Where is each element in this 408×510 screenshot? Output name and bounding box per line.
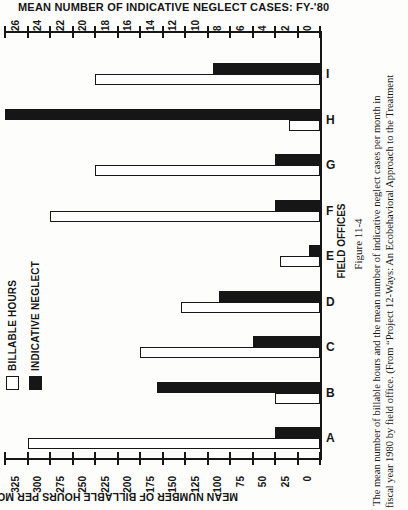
neglect-axis-tick [27,26,29,38]
caption-line-1: The mean number of billable hours and th… [370,4,383,506]
neglect-axis-tick [49,26,51,38]
billable-axis-tick [27,452,29,465]
neglect-axis-tick-label: 14 [145,11,157,31]
zero-baseline [320,31,322,460]
neglect-axis-tick-label: 22 [55,11,67,31]
neglect-axis-tick [139,26,141,38]
billable-axis-tick-label: 25 [280,476,292,497]
billable-axis-tick [252,452,254,465]
bar-billable-hours-G [95,165,320,176]
neglect-axis-tick-label: 6 [235,11,247,31]
billable-axis-tick [72,452,74,465]
bar-billable-hours-I [95,74,320,85]
bar-indicative-neglect-B [157,382,320,393]
bar-indicative-neglect-D [219,291,320,302]
neglect-axis-tick [319,26,321,38]
bar-billable-hours-E [280,256,321,267]
bar-indicative-neglect-I [213,63,320,74]
billable-axis-tick [139,452,141,465]
neglect-axis-tick [94,26,96,38]
billable-axis-tick [207,452,209,465]
neglect-axis-tick [274,26,276,38]
caption-line-2: fiscal year 1980 by field office. (From … [383,2,396,508]
field-office-letter-I: I [326,68,340,80]
neglect-axis-tick-label: 16 [122,11,134,31]
legend-label: BILLABLE HOURS [7,280,18,371]
neglect-axis-tick-label: 24 [32,11,44,31]
bar-indicative-neglect-C [253,336,321,347]
neglect-axis-tick-label: 10 [190,11,202,31]
billable-axis-tick-label: 0 [302,476,314,497]
bar-billable-hours-C [140,347,320,358]
neglect-axis-tick [297,26,299,38]
neglect-axis-tick-label: 2 [280,11,292,31]
billable-axis-tick [297,452,299,465]
bar-billable-hours-D [181,302,321,313]
bar-indicative-neglect-E [309,245,320,256]
neglect-axis-tick [72,26,74,38]
legend-label: INDICATIVE NEGLECT [30,261,41,371]
billable-axis-tick [184,452,186,465]
field-office-letter-H: H [326,114,340,126]
field-office-letter-D: D [326,296,340,308]
neglect-axis-tick-label: 0 [302,11,314,31]
neglect-axis-tick [162,26,164,38]
neglect-axis-tick-label: 20 [77,11,89,31]
billable-axis-tick [319,452,321,465]
bar-billable-hours-F [50,211,320,222]
neglect-axis-tick-label: 4 [257,11,269,31]
billable-axis-tick [49,452,51,465]
neglect-axis-tick [4,26,6,38]
legend-swatch-white [6,376,19,390]
neglect-axis-tick [117,26,119,38]
billable-axis-title: MEAN NUMBER OF BILLABLE HOURS PER MONTH … [14,490,238,504]
scanned-figure-page: MEAN NUMBER OF INDICATIVE NEGLECT CASES:… [0,0,408,510]
figure-number-label: Figure 11-4 [352,197,365,291]
field-office-letter-B: B [326,387,340,399]
field-office-letter-G: G [326,159,340,171]
bar-billable-hours-A [28,438,321,449]
neglect-axis-tick-label: 18 [100,11,112,31]
legend-swatch-black [29,376,42,390]
neglect-axis-tick-label: 12 [167,11,179,31]
bar-indicative-neglect-F [275,200,320,211]
bar-billable-hours-B [275,393,320,404]
billable-axis-tick [4,452,6,465]
category-axis-title: FIELD OFFICES [336,189,348,293]
neglect-axis-tick-label: 8 [212,11,224,31]
bar-indicative-neglect-G [275,154,320,165]
billable-axis-tick [94,452,96,465]
field-office-letter-C: C [326,341,340,353]
bar-indicative-neglect-A [275,427,320,438]
billable-axis-tick [117,452,119,465]
billable-axis-tick-label: 50 [257,476,269,497]
billable-axis-tick [274,452,276,465]
legend-item-black: INDICATIVE NEGLECT [28,240,43,390]
neglect-axis-tick-label: 26 [10,11,22,31]
legend-item-white: BILLABLE HOURS [5,256,20,390]
neglect-axis-tick [252,26,254,38]
neglect-axis-tick [207,26,209,38]
neglect-axis-tick [229,26,231,38]
neglect-axis-tick [184,26,186,38]
bar-billable-hours-H [289,120,321,131]
field-office-letter-A: A [326,432,340,444]
billable-axis-tick [229,452,231,465]
billable-axis-tick [162,452,164,465]
bar-indicative-neglect-H [5,109,320,120]
